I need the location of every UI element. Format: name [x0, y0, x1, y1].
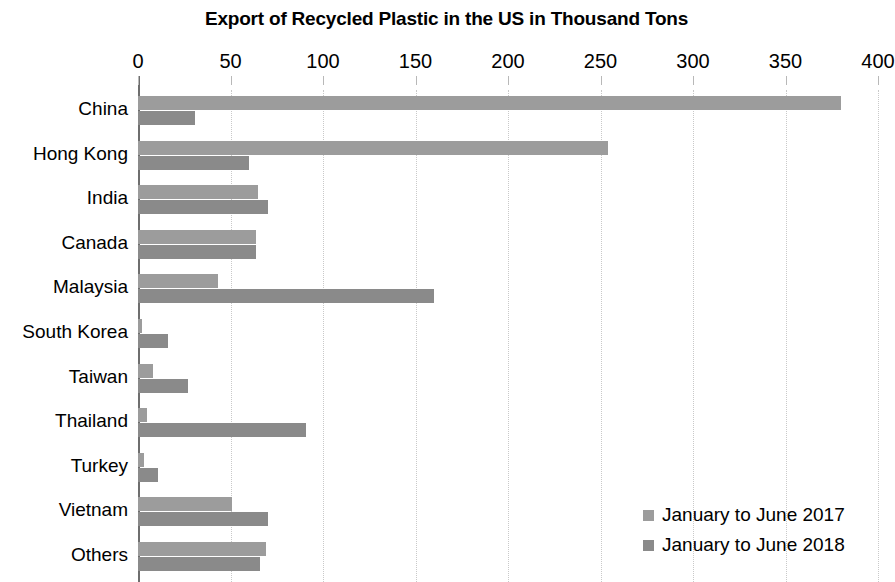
y-tick-label: Hong Kong — [0, 143, 128, 165]
x-tick-mark — [878, 76, 879, 85]
legend-swatch-icon — [643, 510, 654, 521]
y-tick-label: Canada — [0, 232, 128, 254]
y-tick-label: Taiwan — [0, 366, 128, 388]
x-tick-mark — [323, 76, 324, 85]
x-tick-label: 350 — [769, 50, 802, 73]
x-tick-label: 400 — [861, 50, 894, 73]
x-tick-label: 150 — [399, 50, 432, 73]
chart-legend: January to June 2017January to June 2018 — [643, 500, 845, 560]
x-tick-mark — [601, 76, 602, 85]
legend-item: January to June 2018 — [643, 530, 845, 560]
legend-label: January to June 2018 — [662, 534, 845, 556]
x-tick-mark — [138, 76, 139, 85]
y-tick-label: India — [0, 187, 128, 209]
legend-swatch-icon — [643, 540, 654, 551]
x-tick-label: 250 — [584, 50, 617, 73]
legend-item: January to June 2017 — [643, 500, 845, 530]
x-tick-label: 300 — [676, 50, 709, 73]
y-tick-label: Vietnam — [0, 499, 128, 521]
y-tick-label: Malaysia — [0, 276, 128, 298]
x-tick-mark — [693, 76, 694, 85]
x-tick-label: 50 — [219, 50, 241, 73]
y-tick-label: Others — [0, 544, 128, 566]
y-tick-label: South Korea — [0, 321, 128, 343]
x-tick-label: 100 — [306, 50, 339, 73]
y-tick-label: China — [0, 98, 128, 120]
legend-label: January to June 2017 — [662, 504, 845, 526]
x-axis-tick-labels: 050100150200250300350400 — [0, 50, 893, 74]
x-tick-mark — [416, 76, 417, 85]
y-tick-label: Turkey — [0, 455, 128, 477]
x-tick-label: 200 — [491, 50, 524, 73]
y-tick-label: Thailand — [0, 410, 128, 432]
x-tick-mark — [508, 76, 509, 85]
x-tick-mark — [786, 76, 787, 85]
chart-title: Export of Recycled Plastic in the US in … — [0, 8, 893, 30]
x-tick-mark — [231, 76, 232, 85]
x-tick-label: 0 — [132, 50, 143, 73]
